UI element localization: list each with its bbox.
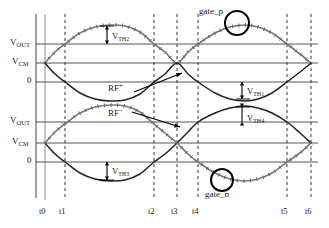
- vth1-arrow-head: [240, 82, 244, 85]
- gridlines-layer: [36, 44, 318, 162]
- curve-tick-marker: [128, 25, 129, 29]
- annotation-rf-plus: RF+: [108, 83, 123, 93]
- vth2-arrow-head: [105, 26, 109, 29]
- annotation-vth3: VTH3: [112, 166, 129, 176]
- x-tick-label-t0: t0: [39, 206, 46, 216]
- waveform-figure: VOUT VCM 0 VOUT VCM 0 t0 t1 t2 t3 t4 t5 …: [0, 0, 329, 228]
- lower-axis-label-vcm: VCM: [12, 136, 29, 146]
- x-tick-label-t6: t6: [305, 206, 312, 216]
- annotation-gate-n: gate_n: [205, 189, 229, 199]
- curve-tick-marker: [224, 176, 225, 180]
- curve-tick-marker: [91, 106, 92, 110]
- x-tick-label-t1: t1: [59, 206, 66, 216]
- x-tick-label-t3: t3: [171, 206, 178, 216]
- x-tick-label-t5: t5: [281, 206, 288, 216]
- annotation-gate-p: gate_p: [199, 6, 223, 16]
- curve-tick-marker: [98, 104, 99, 108]
- curve-tick-marker: [258, 25, 259, 29]
- vth3-arrow-head: [105, 162, 109, 165]
- curve-tick-marker: [231, 177, 232, 181]
- curve-tick-marker: [130, 106, 131, 110]
- vth3-arrow-head: [105, 177, 109, 180]
- curve-tick-marker: [90, 26, 91, 30]
- upper-axis-label-vcm: VCM: [12, 56, 29, 66]
- lower-axis-label-vout: VOUT: [10, 115, 30, 125]
- annotation-arrows-layer: [100, 26, 250, 180]
- vth1-arrow-head: [240, 96, 244, 99]
- curve-tick-marker: [237, 179, 238, 183]
- annotation-vth1: VTH1: [247, 86, 264, 96]
- curves-layer: [44, 23, 313, 183]
- annotation-rf-minus: RF−: [108, 108, 123, 118]
- waveform-svg: [0, 0, 329, 228]
- upper-axis-label-zero: 0: [27, 75, 32, 85]
- x-tick-label-t2: t2: [148, 206, 155, 216]
- annotation-vth4: VTH4: [247, 113, 264, 123]
- curve-tick-marker: [251, 24, 252, 28]
- gate_n-circle: [211, 169, 233, 191]
- curve-tick-marker: [232, 25, 233, 29]
- gate_p-circle: [225, 11, 249, 35]
- curve-tick-marker: [124, 104, 125, 108]
- curve-tick-marker: [122, 24, 123, 28]
- curve-tick-marker: [96, 25, 97, 29]
- annotation-vth2: VTH2: [112, 31, 129, 41]
- x-tick-label-t4: t4: [192, 206, 199, 216]
- time-dashed-lines-layer: [45, 14, 311, 200]
- vth2-arrow-head: [105, 41, 109, 44]
- vth4-arrow-head: [240, 122, 244, 125]
- curve-tick-marker: [256, 177, 257, 181]
- lower-axis-label-zero: 0: [27, 155, 32, 165]
- upper-axis-label-vout: VOUT: [10, 37, 30, 47]
- curve-tick-marker: [263, 175, 264, 179]
